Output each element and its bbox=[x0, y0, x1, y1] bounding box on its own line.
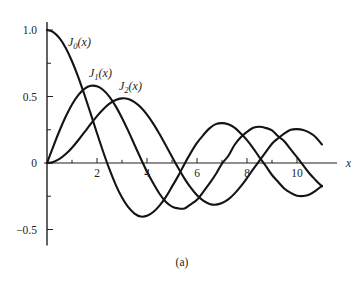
curve-label-j0: J0(x) bbox=[68, 35, 91, 51]
plot-area: 2468101.00.50−0.5x J0(x)J1(x)J2(x) bbox=[0, 0, 364, 284]
x-tick-label: 2 bbox=[94, 167, 100, 179]
x-tick-label: 10 bbox=[291, 167, 303, 179]
curve-labels-group: J0(x)J1(x)J2(x) bbox=[68, 35, 142, 95]
axes-group bbox=[44, 22, 337, 245]
curve-j0x bbox=[47, 30, 322, 217]
figure-caption: (a) bbox=[0, 256, 364, 268]
y-tick-label: −0.5 bbox=[16, 224, 37, 236]
curve-label-j2: J2(x) bbox=[119, 79, 142, 95]
curves-group bbox=[47, 30, 322, 217]
curve-label-j1: J1(x) bbox=[89, 66, 112, 82]
x-tick-label: 4 bbox=[144, 167, 150, 179]
curve-j2x bbox=[47, 98, 322, 204]
x-tick-label: 8 bbox=[244, 167, 250, 179]
y-tick-label: 0 bbox=[31, 157, 37, 169]
y-tick-label: 1.0 bbox=[23, 24, 38, 36]
bessel-function-figure: 2468101.00.50−0.5x J0(x)J1(x)J2(x) (a) bbox=[0, 0, 364, 284]
x-axis-label: x bbox=[345, 157, 352, 169]
y-tick-label: 0.5 bbox=[23, 91, 38, 103]
x-tick-label: 6 bbox=[194, 167, 200, 179]
